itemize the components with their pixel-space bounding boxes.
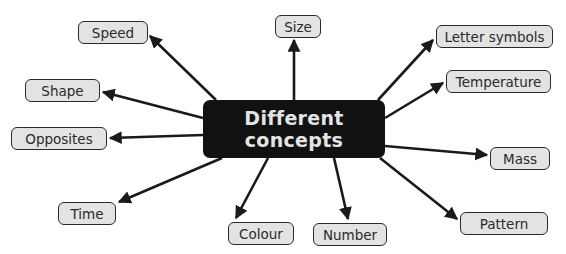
node-time: Time: [58, 202, 116, 225]
central-concept-line-1: Different: [244, 107, 343, 129]
arrow-to-temperature: [385, 83, 443, 118]
arrow-to-opposites: [110, 135, 203, 138]
arrow-to-time: [119, 158, 222, 202]
node-number: Number: [313, 223, 387, 246]
node-shape: Shape: [25, 79, 100, 102]
central-concept-line-2: concepts: [245, 129, 343, 151]
arrow-to-speed: [150, 36, 216, 100]
node-temperature: Temperature: [446, 70, 551, 93]
arrow-to-letter-symbols: [378, 40, 433, 100]
arrow-to-shape: [103, 92, 203, 118]
central-concept-box: Different concepts: [203, 100, 385, 158]
arrow-to-pattern: [380, 158, 457, 219]
node-size: Size: [275, 15, 321, 38]
node-mass: Mass: [490, 147, 550, 170]
mind-map-diagram: Different concepts Speed Size Letter sym…: [0, 0, 566, 254]
node-letter-symbols: Letter symbols: [436, 25, 553, 48]
arrow-to-number: [334, 158, 348, 219]
arrow-to-colour: [236, 158, 268, 218]
node-pattern: Pattern: [460, 212, 548, 235]
node-speed: Speed: [78, 21, 148, 44]
node-opposites: Opposites: [11, 127, 107, 150]
arrow-to-mass: [385, 146, 487, 155]
node-colour: Colour: [228, 222, 294, 245]
